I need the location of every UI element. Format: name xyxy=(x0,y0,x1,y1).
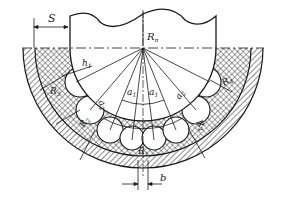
label-s: S xyxy=(48,12,56,25)
label-b: b xyxy=(160,172,166,183)
engineering-diagram: S Rn h1 a1 a1 a2 a2 R3 R2 R1 R2 R4 b xyxy=(0,0,286,204)
